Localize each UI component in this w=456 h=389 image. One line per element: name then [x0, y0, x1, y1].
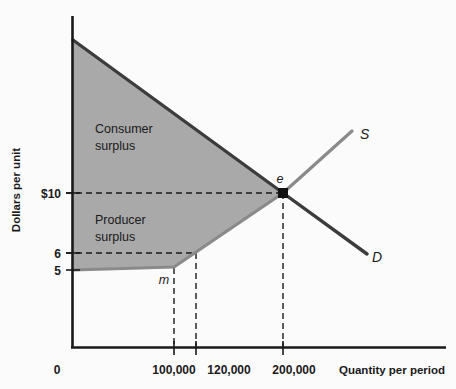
consumer-surplus-label-line1: Consumer	[95, 122, 153, 136]
y-tick-label-5: 5	[54, 264, 61, 278]
x-tick-label-100000: 100,000	[152, 363, 196, 377]
origin-label: 0	[54, 363, 61, 377]
producer-surplus-label-line1: Producer	[95, 213, 146, 227]
supply-curve-label: S	[360, 126, 370, 142]
consumer-surplus-label-line2: surplus	[95, 139, 135, 153]
y-axis-title: Dollars per unit	[10, 148, 22, 233]
equilibrium-marker	[278, 188, 288, 198]
surplus-figure: $10 6 5 100,000 120,000 200,000 0 Quanti…	[0, 0, 456, 389]
x-tick-label-120000: 120,000	[207, 363, 251, 377]
y-tick-label-10: $10	[41, 187, 61, 201]
producer-surplus-label-line2: surplus	[95, 230, 135, 244]
equilibrium-point-label: e	[277, 172, 284, 186]
chart-canvas: $10 6 5 100,000 120,000 200,000 0 Quanti…	[0, 0, 456, 389]
demand-curve-label: D	[372, 249, 382, 265]
supply-kink-point-label: m	[159, 273, 169, 287]
x-axis-title: Quantity per period	[339, 364, 445, 376]
x-tick-label-200000: 200,000	[272, 363, 316, 377]
y-tick-label-6: 6	[54, 247, 61, 261]
